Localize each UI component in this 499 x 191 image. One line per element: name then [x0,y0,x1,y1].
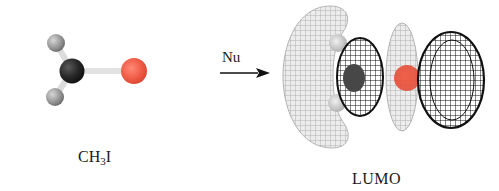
lumo-iodine-atom [394,65,420,91]
ch3i-ball-stick-model [46,34,147,106]
hydrogen-atom-top [47,34,65,52]
iodine-atom [121,58,147,84]
molecule-formula-label: CH3I [78,148,111,167]
formula-prefix: CH [78,148,100,165]
lumo-label: LUMO [352,170,401,188]
arrowhead-icon [256,68,270,78]
diagram-canvas [0,0,499,191]
formula-suffix: I [106,148,111,165]
nucleophile-label: Nu [222,49,240,66]
lumo-orbital-model [283,6,484,148]
lumo-carbon-atom [343,64,365,92]
hydrogen-atom-bottom [46,88,64,106]
carbon-atom [60,59,85,84]
nucleophile-arrow [220,68,270,78]
